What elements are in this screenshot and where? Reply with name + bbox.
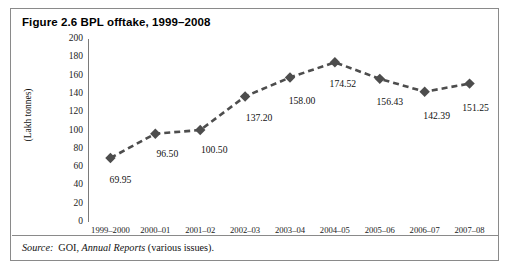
x-axis-tick-label: 1999–2000 (91, 225, 130, 235)
y-axis-title: (Lakh tonnes) (23, 79, 33, 151)
y-axis-tick-label: 60 (57, 162, 83, 172)
y-axis-tick-label: 120 (57, 107, 83, 117)
data-point-label: 158.00 (289, 95, 316, 106)
x-axis-tick-label: 2007–08 (455, 225, 485, 235)
source-note: Source:GOI, Annual Reports (various issu… (22, 242, 214, 253)
data-point-marker (419, 87, 429, 97)
y-axis-tick-labels: 020406080100120140160180200 (55, 39, 83, 222)
data-point-label: 137.20 (246, 112, 273, 123)
x-axis-tick-label: 2001–02 (185, 225, 215, 235)
data-point-marker (375, 74, 385, 84)
axis-lines (89, 39, 493, 222)
y-axis-tick-label: 140 (57, 89, 83, 99)
y-axis-tick-label: 180 (57, 52, 83, 62)
source-suffix: (various issues). (148, 242, 214, 253)
figure-container: Figure 2.6 BPL offtake, 1999–2008 (Lakh … (10, 8, 499, 261)
x-axis-tick-label: 2002–03 (230, 225, 260, 235)
data-point-marker (464, 78, 474, 88)
x-axis-tick-label: 2006–07 (410, 225, 440, 235)
data-point-marker (240, 91, 250, 101)
data-point-label: 69.95 (110, 174, 132, 185)
figure-title: Figure 2.6 BPL offtake, 1999–2008 (22, 16, 210, 28)
x-axis-tick-labels: 1999–20002000–012001–022002–032003–04200… (88, 225, 492, 241)
chart-region: (Lakh tonnes) 02040608010012014016018020… (11, 37, 498, 233)
x-axis-tick-label: 2005–06 (365, 225, 395, 235)
y-axis-tick-label: 40 (57, 180, 83, 190)
line-chart-svg (88, 39, 492, 222)
y-axis-tick-label: 0 (57, 217, 83, 227)
y-axis-tick-label: 20 (57, 199, 83, 209)
data-point-label: 174.52 (330, 78, 357, 89)
data-point-marker (285, 72, 295, 82)
data-point-label: 156.43 (376, 96, 403, 107)
data-point-marker (330, 57, 340, 67)
data-point-marker (150, 129, 160, 139)
source-label: Source: (22, 242, 53, 253)
plot-area: 69.9596.50100.50137.20158.00174.52156.43… (88, 39, 492, 222)
x-axis-tick-label: 2003–04 (275, 225, 305, 235)
data-point-label: 142.39 (423, 110, 450, 121)
y-axis-tick-label: 200 (57, 34, 83, 44)
source-divider (12, 235, 499, 236)
source-org: GOI, (58, 242, 79, 253)
x-axis-tick-label: 2004–05 (320, 225, 350, 235)
y-axis-tick-label: 100 (57, 126, 83, 136)
y-axis-tick-label: 80 (57, 144, 83, 154)
y-axis-tick-label: 160 (57, 71, 83, 81)
data-point-label: 151.25 (462, 102, 489, 113)
data-point-label: 96.50 (156, 148, 178, 159)
x-axis-tick-label: 2000–01 (140, 225, 170, 235)
source-publication: Annual Reports (82, 242, 146, 253)
data-point-marker (105, 153, 115, 163)
data-point-label: 100.50 (201, 144, 228, 155)
